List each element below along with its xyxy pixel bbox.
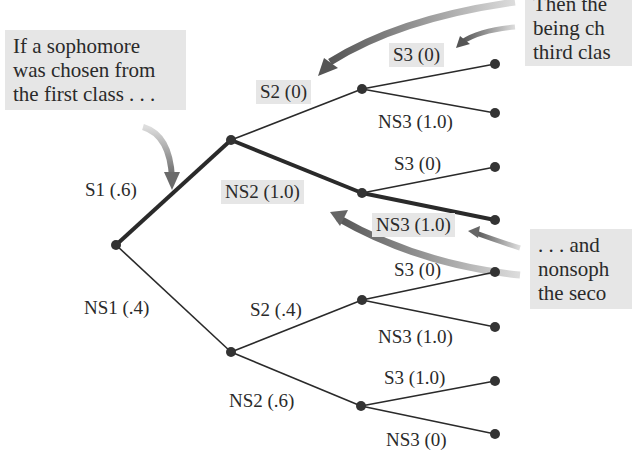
branch-label-ns1-s2-s3: S3 (0) — [390, 258, 445, 282]
callout-line: If a sophomore — [13, 34, 178, 58]
branch-label-s1-ns2-s3: S3 (0) — [390, 152, 445, 176]
branch-label-s1-s2-s3: S3 (0) — [389, 43, 444, 67]
branch-label-ns1-s2: S2 (.4) — [246, 298, 306, 322]
callout-line: nonsoph — [538, 257, 624, 281]
branch-label-s1: S1 (.6) — [81, 178, 141, 202]
callout-line: the seco — [538, 281, 624, 305]
arrow-top-right-short — [456, 27, 515, 48]
arrow-mid-right-short — [468, 226, 520, 248]
callout-first-class: If a sophomore was chosen from the first… — [5, 30, 186, 110]
branch-label-s1-s2: S2 (0) — [256, 80, 311, 104]
branch-label-ns1-ns2: NS2 (.6) — [225, 389, 298, 413]
callout-line: being ch — [533, 16, 624, 40]
branch-label-ns1-s2-ns3: NS3 (1.0) — [374, 325, 457, 349]
callout-line: was chosen from — [13, 58, 178, 82]
branch-label-s1-ns2-ns3: NS3 (1.0) — [372, 213, 455, 237]
callout-line: . . . and — [538, 233, 624, 257]
branch-label-ns1-ns2-s3: S3 (1.0) — [380, 366, 449, 390]
callout-third-class: Then the being ch third clas — [525, 0, 632, 66]
branch-label-ns1-ns2-ns3: NS3 (0) — [382, 428, 451, 452]
branch-label-s1-s2-ns3: NS3 (1.0) — [374, 110, 457, 134]
callout-line: Then the — [533, 0, 624, 16]
branch-label-s1-ns2: NS2 (1.0) — [221, 180, 304, 204]
callout-line: third clas — [533, 40, 624, 64]
branch-label-ns1: NS1 (.4) — [80, 296, 153, 320]
callout-second-class: . . . and nonsoph the seco — [530, 229, 632, 309]
arrow-top-left — [143, 127, 180, 190]
callout-line: the first class . . . — [13, 82, 178, 106]
